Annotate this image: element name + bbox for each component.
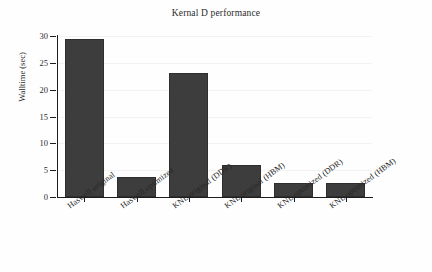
chart-figure: Kernal D performance Walltime (sec) 0510… bbox=[0, 0, 432, 272]
y-tick-label: 10 bbox=[24, 138, 48, 148]
bar bbox=[65, 39, 104, 197]
y-tick-label: 5 bbox=[24, 165, 48, 175]
chart-title: Kernal D performance bbox=[0, 8, 432, 18]
gridline bbox=[58, 63, 372, 64]
y-tick bbox=[50, 117, 56, 118]
y-tick bbox=[50, 90, 56, 91]
y-tick-label: 0 bbox=[24, 192, 48, 202]
y-tick bbox=[50, 143, 56, 144]
y-tick-label: 25 bbox=[24, 58, 48, 68]
y-tick bbox=[50, 170, 56, 171]
y-tick-label: 15 bbox=[24, 112, 48, 122]
y-tick bbox=[50, 197, 56, 198]
gridline bbox=[58, 143, 372, 144]
gridline bbox=[58, 36, 372, 37]
y-tick bbox=[50, 63, 56, 64]
y-tick-label: 30 bbox=[24, 31, 48, 41]
y-tick-label: 20 bbox=[24, 85, 48, 95]
y-tick bbox=[50, 36, 56, 37]
gridline bbox=[58, 117, 372, 118]
gridline bbox=[58, 90, 372, 91]
bar bbox=[169, 73, 208, 198]
x-axis-line bbox=[57, 197, 373, 198]
